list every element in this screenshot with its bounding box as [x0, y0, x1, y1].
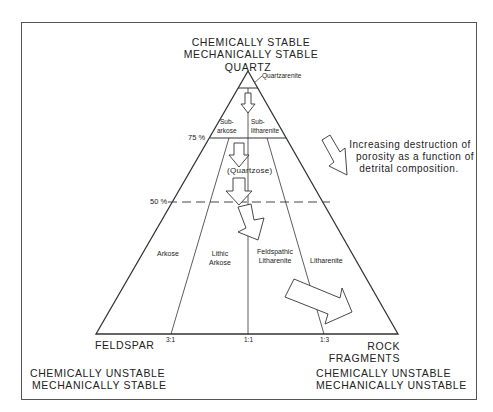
label-75-percent: 75 % [188, 134, 205, 142]
arrow-down-icon [229, 143, 249, 167]
vertex-rock-fragments-line1: ROCK [340, 340, 400, 352]
vertex-rock-fragments-line2: FRAGMENTS [320, 352, 400, 364]
bottom-right-stability-line1: CHEMICALLY UNSTABLE [316, 367, 451, 379]
arrow-down-right-large-icon [285, 279, 352, 324]
field-litharenite: Litharenite [310, 257, 343, 265]
field-sublitharenite-line2: litharenite [251, 127, 279, 135]
field-quartzarenite: Quartzarenite [262, 72, 301, 80]
ratio-line-3-1 [171, 138, 229, 334]
field-feldspathic-litharenite-line1: Feldspathic [250, 248, 300, 256]
arrow-down-right-icon [322, 135, 347, 175]
bottom-left-stability-line1: CHEMICALLY UNSTABLE [30, 367, 165, 379]
arrow-down-icon [241, 93, 255, 113]
label-ratio-1-3: 1:3 [320, 336, 329, 344]
top-stability-line2: MECHANICALLY STABLE [176, 48, 326, 60]
arrow-down-right-icon [238, 204, 264, 240]
annotation-line1: Increasing destruction of [348, 139, 472, 152]
bottom-right-stability-line2: MECHANICALLY UNSTABLE [316, 379, 467, 391]
vertex-feldspar: FELDSPAR [95, 339, 154, 351]
annotation-line2: porosity as a function of [353, 151, 477, 164]
bottom-left-stability-line2: MECHANICALLY STABLE [32, 379, 167, 391]
field-quartzose: (Quartzose) [227, 165, 273, 176]
field-sublitharenite-line1: Sub- [251, 118, 265, 126]
annotation-line3: detrital composition. [350, 163, 468, 176]
label-ratio-1-1: 1:1 [244, 336, 253, 344]
field-subarkose-line1: Sub- [220, 118, 234, 126]
top-stability-line1: CHEMICALLY STABLE [176, 36, 326, 48]
label-50-percent: 50 % [150, 198, 167, 206]
field-feldspathic-litharenite-line2: Litharenite [250, 257, 300, 265]
label-ratio-3-1: 3:1 [166, 336, 175, 344]
field-lithic-arkose-line1: Lithic [200, 250, 240, 258]
field-lithic-arkose-line2: Arkose [200, 259, 240, 267]
field-arkose: Arkose [157, 250, 179, 258]
quartzarenite-leader [254, 76, 262, 83]
field-subarkose-line2: arkose [217, 127, 237, 135]
